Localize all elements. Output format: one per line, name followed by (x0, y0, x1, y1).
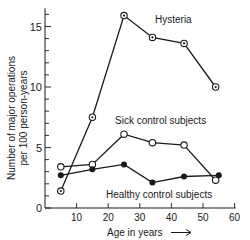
marker-dot (151, 36, 153, 38)
filled-circle-marker-icon (216, 172, 222, 178)
open-circle-marker-icon (181, 142, 187, 148)
filled-circle-marker-icon (121, 161, 127, 167)
filled-circle-marker-icon (58, 172, 64, 178)
x-tick-label: 50 (197, 212, 209, 223)
open-circle-marker-icon (149, 139, 155, 145)
x-tick-label: 60 (229, 212, 241, 223)
marker-dot (215, 86, 217, 88)
open-circle-marker-icon (58, 164, 64, 170)
x-tick-label: 30 (134, 212, 146, 223)
series-line (61, 164, 219, 182)
y-tick-label: 5 (36, 142, 42, 154)
y-axis-label-line2: per 100 person-years (18, 70, 29, 165)
x-tick-label: 40 (166, 212, 178, 223)
filled-circle-marker-icon (181, 174, 187, 180)
series-label: Sick control subjects (115, 115, 206, 126)
filled-circle-marker-icon (149, 180, 155, 186)
series-layer (58, 12, 222, 194)
x-tick-label: 10 (71, 212, 83, 223)
open-circle-marker-icon (121, 131, 127, 137)
y-axis-label-line1: Number of major operations (6, 56, 17, 180)
marker-dot (91, 116, 93, 118)
series-label: Healthy control subjects (106, 189, 212, 200)
y-tick-label: 0 (36, 202, 42, 214)
x-tick-label: 20 (103, 212, 115, 223)
x-axis-label: Age in years (107, 227, 163, 238)
marker-dot (183, 42, 185, 44)
y-tick-label: 15 (30, 21, 42, 33)
line-chart: 051015102030405060 Age in yearsNumber of… (0, 0, 250, 240)
marker-dot (123, 15, 125, 17)
series-label: Hysteria (155, 14, 192, 25)
filled-circle-marker-icon (89, 166, 95, 172)
series-hysteria (58, 12, 219, 194)
marker-dot (60, 190, 62, 192)
y-tick-label: 10 (30, 81, 42, 93)
